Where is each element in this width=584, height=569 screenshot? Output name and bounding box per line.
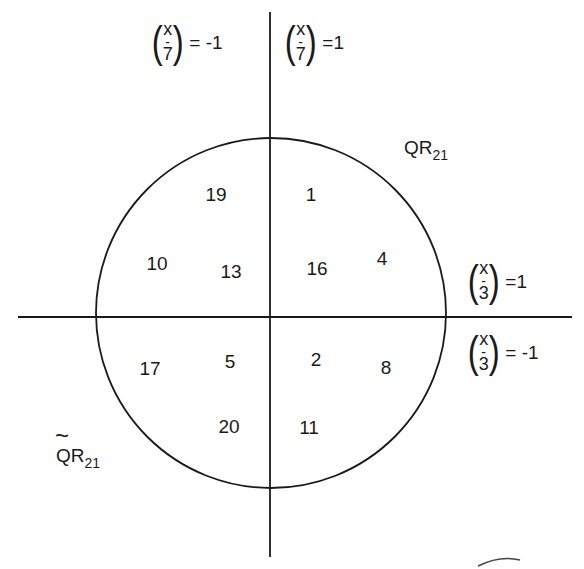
left-paren: ( xyxy=(285,20,296,64)
legendre-x-7-one: ( x - 7 ) =1 xyxy=(283,20,344,64)
residue-number: 10 xyxy=(146,254,167,273)
residue-number: 20 xyxy=(218,417,239,436)
right-paren: ) xyxy=(489,259,500,303)
denominator: 3 xyxy=(479,285,489,302)
denominator: 7 xyxy=(163,46,173,63)
residue-number: 19 xyxy=(205,185,226,204)
legendre-x-3-one: ( x - 3 ) =1 xyxy=(466,259,527,303)
equals-value: = -1 xyxy=(189,33,222,52)
residue-number: 2 xyxy=(311,350,322,369)
set-subscript: 21 xyxy=(433,147,449,163)
equals-value: =1 xyxy=(322,33,344,52)
residue-number: 8 xyxy=(381,358,392,377)
set-name: QR xyxy=(56,445,85,466)
left-paren: ( xyxy=(152,20,163,64)
denominator: 7 xyxy=(296,46,306,63)
right-paren: ) xyxy=(173,20,184,64)
fraction: x - 3 xyxy=(479,260,489,303)
equals-value: = -1 xyxy=(505,343,538,362)
residue-circle xyxy=(96,138,446,488)
right-paren: ) xyxy=(306,20,317,64)
legendre-x-7-minus-one: ( x - 7 ) = -1 xyxy=(150,20,223,64)
qr21-label: QR21 xyxy=(404,138,448,162)
left-paren: ( xyxy=(468,259,479,303)
right-paren: ) xyxy=(489,330,500,374)
residue-number: 4 xyxy=(377,249,388,268)
residue-number: 5 xyxy=(225,352,236,371)
set-subscript: 21 xyxy=(85,455,101,471)
fraction: x - 7 xyxy=(296,21,306,64)
fraction: x - 7 xyxy=(163,21,173,64)
residue-number: 13 xyxy=(220,262,241,281)
residue-number: 16 xyxy=(306,259,327,278)
denominator: 3 xyxy=(479,356,489,373)
legendre-x-3-minus-one: ( x - 3 ) = -1 xyxy=(466,330,539,374)
partial-curve-decoration xyxy=(478,558,520,566)
qr21-tilde-label: QR21 xyxy=(56,446,100,470)
fraction: x - 3 xyxy=(479,331,489,374)
left-paren: ( xyxy=(468,330,479,374)
residue-number: 11 xyxy=(299,418,319,437)
residue-number: 17 xyxy=(139,359,160,378)
residue-number: 1 xyxy=(306,185,317,204)
equals-value: =1 xyxy=(505,272,527,291)
set-name: QR xyxy=(404,137,433,158)
